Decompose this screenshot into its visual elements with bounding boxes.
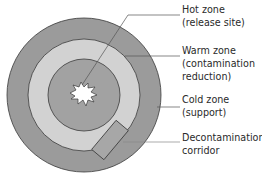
decon-corridor-title: Decontamination: [182, 131, 262, 144]
cold-zone-title: Cold zone: [182, 93, 229, 106]
hot-zone-subtitle: (release site): [182, 16, 245, 29]
decon-corridor-subtitle: corridor: [182, 144, 262, 157]
cold-zone-label: Cold zone (support): [182, 93, 229, 119]
warm-zone-subtitle-1: (contamination: [182, 57, 255, 70]
cold-zone-subtitle: (support): [182, 106, 229, 119]
hot-zone-label: Hot zone (release site): [182, 3, 245, 29]
decon-corridor-label: Decontamination corridor: [182, 131, 262, 157]
warm-zone-label: Warm zone (contamination reduction): [182, 44, 255, 83]
warm-zone-title: Warm zone: [182, 44, 255, 57]
warm-zone-subtitle-2: reduction): [182, 70, 255, 83]
hot-zone-title: Hot zone: [182, 3, 245, 16]
